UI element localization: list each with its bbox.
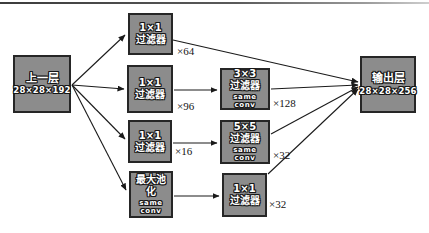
conv3x3-padding-label: same conv [222, 93, 268, 110]
conv1x1-branch3-label: 过滤器 [135, 142, 165, 154]
output-layer-node: 输出层 28×28×256 [360, 56, 416, 113]
output-layer-label: 输出层 [372, 73, 405, 86]
connector-arrows [0, 0, 429, 233]
output-layer-dimensions: 28×28×256 [359, 86, 416, 96]
inception-module-diagram: 上一层 28×28×192 1×1 过滤器 1×1 过滤器 1×1 过滤器 最大… [0, 0, 429, 233]
filter-count-32-conv5: ×32 [273, 149, 290, 161]
conv1x1-after-pool-size: 1×1 [233, 183, 255, 195]
conv1x1-branch3-node: 1×1 过滤器 [128, 120, 172, 163]
maxpool-label-line1: 最大池 [136, 174, 166, 186]
input-layer-dimensions: 28×28×192 [13, 85, 70, 95]
conv1x1-branch3-size: 1×1 [139, 130, 161, 142]
conv5x5-label: 过滤器 [230, 133, 260, 145]
conv1x1-branch1-label: 过滤器 [136, 34, 166, 46]
page-top-rule [0, 2, 429, 4]
conv1x1-branch2-size: 1×1 [139, 77, 161, 89]
conv1x1-branch2-node: 1×1 过滤器 [127, 65, 173, 113]
maxpool-node: 最大池 化 same conv [129, 171, 173, 218]
conv1x1-after-pool-node: 1×1 过滤器 [222, 173, 267, 217]
maxpool-label-line2: 化 [146, 186, 156, 198]
arrow-input-to-branch2 [72, 85, 124, 89]
filter-count-96: ×96 [177, 100, 194, 112]
conv3x3-label: 过滤器 [230, 80, 260, 92]
conv3x3-node: 3×3 过滤器 same conv [220, 68, 270, 110]
conv1x1-after-pool-label: 过滤器 [230, 195, 260, 207]
arrow-input-to-branch3 [72, 85, 125, 139]
arrow-conv3x3-to-output [271, 85, 358, 89]
filter-count-16: ×16 [175, 145, 192, 157]
conv5x5-padding-label: same conv [222, 146, 268, 163]
conv3x3-size: 3×3 [234, 68, 256, 80]
maxpool-padding-label: same conv [131, 199, 171, 216]
conv5x5-node: 5×5 过滤器 same conv [220, 120, 270, 164]
filter-count-64: ×64 [177, 45, 194, 57]
filter-count-32-conv1: ×32 [269, 198, 286, 210]
conv1x1-branch1-node: 1×1 过滤器 [128, 13, 173, 55]
input-layer-label: 上一层 [26, 73, 59, 86]
arrow-input-to-branch4 [72, 85, 126, 190]
arrow-conv5x5-to-output [271, 87, 358, 134]
arrow-input-to-branch1 [72, 35, 125, 85]
conv1x1-branch1-size: 1×1 [139, 22, 161, 34]
conv1x1-branch2-label: 过滤器 [135, 89, 165, 101]
filter-count-128: ×128 [273, 97, 296, 109]
input-layer-node: 上一层 28×28×192 [13, 55, 71, 113]
conv5x5-size: 5×5 [234, 121, 256, 133]
